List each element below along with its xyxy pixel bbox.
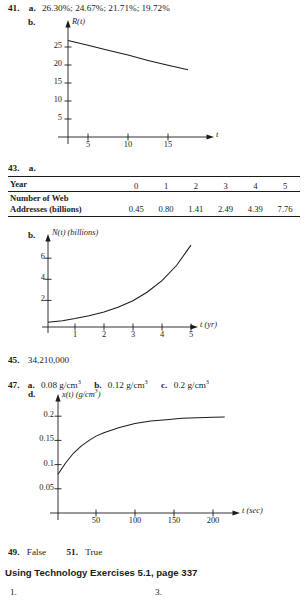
x-ticklabel-200: 200 — [204, 516, 222, 525]
y-axis-label-tail: ) — [98, 390, 101, 399]
section-heading: Using Technology Exercises 5.1, page 337 — [5, 567, 197, 578]
y-axis-arrow — [55, 394, 60, 402]
exercise-number-49: 49. — [8, 547, 19, 557]
part-label-a: a. — [29, 3, 36, 13]
y-ticklabel-6: 6 — [35, 252, 45, 261]
answer-47c-exponent: 3 — [206, 378, 209, 385]
x-axis-arrow — [207, 134, 215, 139]
x-axis-label: t — [216, 130, 218, 139]
table-cell-value-4: 4.39 — [240, 192, 270, 217]
answer-49-text: False — [27, 547, 46, 557]
x-ticklabel-10: 10 — [121, 140, 135, 149]
y-ticklabel-5: 5 — [52, 113, 62, 122]
y-ticklabel-20: 20 — [52, 59, 62, 68]
y-axis-label-text: N(t) (billions) — [52, 228, 98, 237]
table-cell-value-5: 7.76 — [270, 192, 300, 217]
y-ticklabel-15: 15 — [52, 77, 62, 86]
table-cell-value-1: 0.80 — [151, 192, 181, 217]
y-axis-label: N(t) (billions) — [52, 228, 98, 237]
answer-41a: 41. a. 26.30%; 24.67%; 21.71%; 19.72% — [8, 3, 170, 14]
y-ticklabel-4: 4 — [35, 273, 45, 282]
table-cell-year-1: 1 — [151, 177, 181, 192]
answer-43: 43. a. — [8, 163, 36, 174]
x-ticklabel-15: 15 — [161, 140, 175, 149]
table-cell-year-4: 4 — [240, 177, 270, 192]
x-ticklabel-5: 5 — [186, 330, 196, 339]
table-header-web-addresses: Number of Web Addresses (billions) — [8, 192, 121, 217]
y-ticklabel-015: 0.15 — [28, 434, 54, 443]
answer-49-51: 49. False 51. True — [8, 547, 102, 558]
x-ticklabel-150: 150 — [165, 516, 183, 525]
table-cell-year-3: 3 — [211, 177, 241, 192]
exercise-number-43: 43. — [8, 163, 19, 173]
table-cell-value-0: 0.45 — [121, 192, 151, 217]
x-ticklabel-50: 50 — [88, 516, 104, 525]
table-row-values: Number of Web Addresses (billions) 0.45 … — [8, 192, 300, 217]
y-ticklabel-2: 2 — [35, 294, 45, 303]
x-axis-arrow — [191, 324, 199, 329]
x-ticklabel-4: 4 — [157, 330, 167, 339]
table-cell-year-5: 5 — [270, 177, 300, 192]
y-axis-label: R(t) — [72, 17, 85, 26]
x-axis-arrow — [233, 510, 241, 515]
series-line-N — [48, 245, 191, 322]
chart-47d: x(t) (g/cm3) t (sec) 0.05 0.1 0.15 0.2 5… — [40, 388, 280, 528]
x-axis-label: t (yr) — [200, 320, 217, 329]
exercise-number-41: 41. — [8, 3, 19, 13]
chart-41b: R(t) t 25 20 15 10 5 5 10 15 — [40, 16, 220, 148]
y-axis-label-base: x(t) (g/cm — [62, 390, 95, 399]
part-label-a-43: a. — [29, 163, 36, 173]
x-ticklabel-100: 100 — [126, 516, 144, 525]
table-row-year: Year 0 1 2 3 4 5 — [8, 177, 300, 192]
exercise-number-45: 45. — [8, 355, 19, 365]
answer-47b-exponent: 3 — [145, 378, 148, 385]
tech-exercise-item-3: 3. — [155, 587, 162, 598]
answer-41a-text: 26.30%; 24.67%; 21.71%; 19.72% — [42, 3, 170, 13]
chart-43b: N(t) (billions) t (yr) 2 4 6 1 2 3 4 5 — [40, 228, 240, 346]
y-ticklabel-01: 0.1 — [28, 459, 54, 468]
answer-51-text: True — [85, 547, 102, 557]
answer-45: 45. 34,210,000 — [8, 355, 69, 366]
table-header-year: Year — [8, 177, 121, 192]
table-cell-value-2: 1.41 — [181, 192, 211, 217]
table-cell-year-2: 2 — [181, 177, 211, 192]
y-axis-arrow — [45, 234, 50, 242]
part-label-47d: d. — [28, 389, 35, 400]
answer-key-page: 41. a. 26.30%; 24.67%; 21.71%; 19.72% b. — [0, 0, 308, 603]
answer-47a-exponent: 3 — [78, 378, 81, 385]
part-label-43b: b. — [28, 230, 35, 241]
x-ticklabel-1: 1 — [70, 330, 80, 339]
y-ticklabel-02: 0.2 — [28, 410, 54, 419]
x-ticklabel-2: 2 — [99, 330, 109, 339]
exercise-number-51: 51. — [66, 547, 77, 557]
exercise-number-47: 47. — [8, 380, 19, 390]
answer-45-text: 34,210,000 — [28, 355, 69, 365]
table-header-line1: Number of Web — [10, 193, 68, 203]
x-axis-label: t (sec) — [242, 506, 263, 515]
y-axis-label: x(t) (g/cm3) — [62, 388, 100, 399]
table-header-line2: Addresses (billions) — [10, 204, 82, 214]
part-label-41b: b. — [28, 17, 35, 28]
table-cell-value-3: 2.49 — [211, 192, 241, 217]
table-web-addresses: Year 0 1 2 3 4 5 Number of Web Addresses… — [8, 176, 300, 217]
y-axis-arrow — [65, 20, 70, 28]
x-ticklabel-3: 3 — [128, 330, 138, 339]
series-line-R — [68, 40, 188, 69]
tech-exercise-item-1: 1. — [10, 587, 17, 598]
x-ticklabel-5: 5 — [83, 140, 93, 149]
series-line-x — [58, 417, 225, 474]
y-ticklabel-25: 25 — [52, 41, 62, 50]
table-cell-year-0: 0 — [121, 177, 151, 192]
y-ticklabel-10: 10 — [52, 95, 62, 104]
y-ticklabel-005: 0.05 — [28, 483, 54, 492]
